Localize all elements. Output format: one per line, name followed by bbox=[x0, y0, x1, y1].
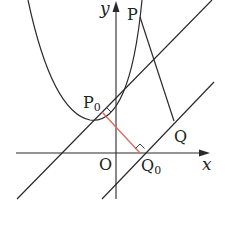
point-P0-label: P0 bbox=[83, 93, 101, 114]
x-axis-label: x bbox=[202, 154, 212, 174]
origin-label: O bbox=[99, 155, 112, 174]
segment-P0Q0 bbox=[102, 112, 140, 153]
point-P-label: P bbox=[127, 5, 138, 24]
tangent-line bbox=[17, 0, 212, 199]
parallel-line bbox=[102, 82, 214, 199]
diagram-canvas: y x O P Q P0 Q0 bbox=[0, 0, 232, 228]
y-axis-arrow-icon bbox=[113, 1, 120, 12]
point-Q0-label: Q0 bbox=[141, 156, 161, 177]
right-angle-mark-Q0 bbox=[136, 144, 145, 149]
point-Q-label: Q bbox=[174, 127, 187, 146]
y-axis-label: y bbox=[99, 0, 110, 18]
